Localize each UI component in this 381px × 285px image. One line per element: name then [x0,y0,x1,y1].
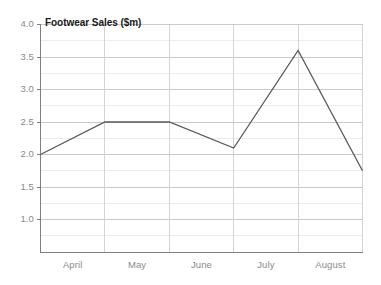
y-axis-tick-label: 3.5 [8,52,34,62]
y-axis-tick-label: 1.5 [8,182,34,192]
x-axis-tick-label: June [170,259,234,270]
x-axis-tick-label: May [105,259,169,270]
y-axis-tick-label: 2.0 [8,149,34,159]
y-axis-tick-label: 1.0 [8,214,34,224]
y-axis-tick-label: 2.5 [8,117,34,127]
minor-gridlines-group [41,41,363,236]
line-chart: 4.03.53.02.52.01.51.0 AprilMayJuneJulyAu… [0,0,381,285]
x-axis-tick-label: August [298,259,362,270]
y-axis-tick-label: 4.0 [8,19,34,29]
y-axis-ticks-group [37,25,41,220]
x-axis-tick-label: April [41,259,105,270]
chart-plot-area [0,0,381,285]
chart-title: Footwear Sales ($m) [45,17,141,28]
y-axis-tick-label: 3.0 [8,84,34,94]
x-axis-tick-label: July [234,259,298,270]
data-series-line [41,51,363,171]
